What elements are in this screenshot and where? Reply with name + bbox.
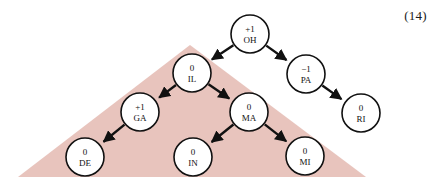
- node-in[interactable]: 0IN: [174, 138, 212, 176]
- node-oh[interactable]: +1OH: [231, 15, 269, 53]
- node-ma[interactable]: 0MA: [230, 93, 268, 131]
- node-label-in: IN: [188, 158, 198, 168]
- node-value-oh: +1: [245, 24, 255, 34]
- node-label-ma: MA: [242, 113, 257, 123]
- tree-diagram-canvas: +1OH0IL−1PA+1GA0MA0RI0DE0IN0MI: [0, 0, 437, 192]
- edge-oh-to-il: [212, 45, 233, 59]
- node-pa[interactable]: −1PA: [287, 55, 325, 93]
- node-value-in: 0: [191, 147, 196, 157]
- node-label-ri: RI: [357, 114, 366, 124]
- node-value-mi: 0: [303, 146, 308, 156]
- node-label-pa: PA: [301, 75, 312, 85]
- node-label-de: DE: [79, 158, 91, 168]
- node-value-il: 0: [190, 63, 195, 73]
- node-value-ma: 0: [247, 102, 252, 112]
- node-label-il: IL: [188, 74, 197, 84]
- node-value-pa: −1: [301, 64, 311, 74]
- node-label-mi: MI: [300, 157, 311, 167]
- node-de[interactable]: 0DE: [66, 138, 104, 176]
- node-value-de: 0: [83, 147, 88, 157]
- node-ga[interactable]: +1GA: [121, 93, 159, 131]
- node-label-oh: OH: [244, 35, 257, 45]
- edge-pa-to-ri: [322, 86, 341, 100]
- edge-oh-to-pa: [266, 46, 286, 60]
- node-il[interactable]: 0IL: [173, 54, 211, 92]
- node-value-ri: 0: [359, 103, 364, 113]
- node-mi[interactable]: 0MI: [286, 137, 324, 175]
- node-label-ga: GA: [134, 113, 147, 123]
- node-value-ga: +1: [135, 102, 145, 112]
- node-ri[interactable]: 0RI: [342, 94, 380, 132]
- equation-number: (14): [404, 8, 427, 24]
- tree-diagram-figure: +1OH0IL−1PA+1GA0MA0RI0DE0IN0MI (14): [0, 0, 437, 192]
